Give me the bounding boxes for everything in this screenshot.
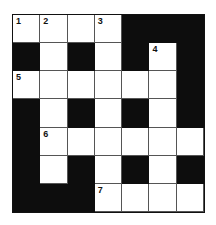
crossword-cell[interactable]	[149, 99, 176, 127]
blocked-cell	[177, 15, 204, 43]
crossword-cell[interactable]: 4	[149, 43, 176, 71]
crossword-cell[interactable]	[40, 99, 67, 127]
blocked-cell	[13, 128, 40, 156]
blocked-cell	[122, 99, 149, 127]
crossword-cell[interactable]	[95, 156, 122, 184]
crossword-cell[interactable]	[177, 128, 204, 156]
blocked-cell	[68, 99, 95, 127]
crossword-cell[interactable]	[122, 71, 149, 99]
clue-number: 1	[16, 16, 21, 26]
blocked-cell	[40, 184, 67, 212]
clue-number: 7	[98, 185, 103, 195]
crossword-grid: 1234567	[12, 14, 205, 213]
crossword-cell[interactable]	[122, 184, 149, 212]
crossword-cell[interactable]	[149, 184, 176, 212]
crossword-cell[interactable]: 7	[95, 184, 122, 212]
clue-number: 3	[98, 16, 103, 26]
blocked-cell	[13, 99, 40, 127]
crossword-cell[interactable]	[40, 43, 67, 71]
blocked-cell	[13, 43, 40, 71]
blocked-cell	[177, 156, 204, 184]
crossword-cell[interactable]: 3	[95, 15, 122, 43]
blocked-cell	[13, 156, 40, 184]
crossword-cell[interactable]	[68, 15, 95, 43]
crossword-cell[interactable]	[68, 128, 95, 156]
blocked-cell	[122, 43, 149, 71]
blocked-cell	[177, 43, 204, 71]
crossword-cell[interactable]	[149, 128, 176, 156]
blocked-cell	[177, 71, 204, 99]
clue-number: 4	[152, 44, 157, 54]
crossword-cell[interactable]	[95, 99, 122, 127]
crossword-cell[interactable]	[40, 71, 67, 99]
crossword-cell[interactable]	[177, 184, 204, 212]
crossword-cell[interactable]	[40, 156, 67, 184]
crossword-cell[interactable]: 5	[13, 71, 40, 99]
blocked-cell	[149, 15, 176, 43]
blocked-cell	[122, 15, 149, 43]
blocked-cell	[68, 156, 95, 184]
crossword-cell[interactable]	[149, 71, 176, 99]
crossword-cell[interactable]	[149, 156, 176, 184]
blocked-cell	[13, 184, 40, 212]
blocked-cell	[68, 43, 95, 71]
clue-number: 5	[16, 72, 21, 82]
blocked-cell	[177, 99, 204, 127]
crossword-cell[interactable]	[122, 128, 149, 156]
crossword-cell[interactable]	[68, 71, 95, 99]
crossword-cell[interactable]: 1	[13, 15, 40, 43]
crossword-cell[interactable]	[95, 43, 122, 71]
blocked-cell	[68, 184, 95, 212]
crossword-cell[interactable]	[95, 128, 122, 156]
blocked-cell	[122, 156, 149, 184]
clue-number: 2	[43, 16, 48, 26]
crossword-cell[interactable]: 2	[40, 15, 67, 43]
clue-number: 6	[43, 129, 48, 139]
crossword-cell[interactable]: 6	[40, 128, 67, 156]
crossword-cell[interactable]	[95, 71, 122, 99]
